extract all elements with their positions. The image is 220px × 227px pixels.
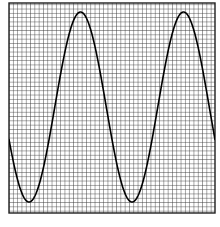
graph-figure	[0, 0, 220, 227]
sine-wave-plot	[0, 0, 220, 227]
